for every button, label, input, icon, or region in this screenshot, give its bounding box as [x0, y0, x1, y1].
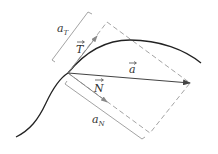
label-t: T	[76, 43, 85, 56]
label-a: a	[129, 63, 136, 76]
label-n: N	[93, 82, 104, 95]
acceleration-diagram: aT T N a aN	[0, 0, 218, 154]
label-a-n: aN	[92, 113, 106, 128]
normal-bracket	[65, 81, 145, 139]
label-a-t: aT	[57, 22, 70, 37]
trajectory-curve	[16, 40, 201, 137]
